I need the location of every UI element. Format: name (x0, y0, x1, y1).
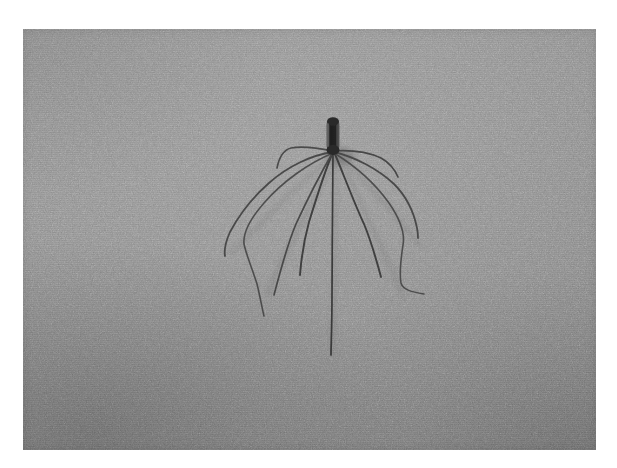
page-canvas (0, 0, 617, 468)
arthropod-subject (23, 29, 596, 450)
leg-shadows (232, 156, 420, 356)
body-highlight (327, 123, 329, 147)
photograph (23, 29, 596, 450)
leg-r4 (334, 152, 381, 277)
body-group (327, 117, 340, 155)
